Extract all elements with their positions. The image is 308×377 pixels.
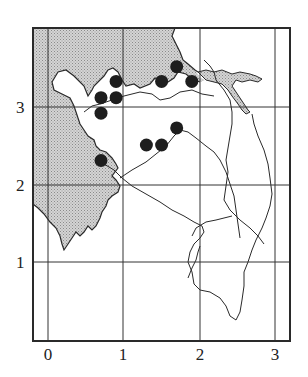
site-marker bbox=[110, 75, 123, 88]
y-tick-label: 2 bbox=[16, 177, 25, 194]
site-marker bbox=[95, 91, 108, 104]
x-tick-label: 3 bbox=[271, 346, 280, 363]
site-marker bbox=[185, 75, 198, 88]
site-marker bbox=[170, 60, 183, 73]
y-tick-label: 3 bbox=[16, 99, 25, 116]
x-tick-label: 0 bbox=[44, 346, 53, 363]
river-tributary bbox=[192, 216, 232, 236]
site-marker bbox=[140, 139, 153, 152]
site-marker bbox=[95, 107, 108, 120]
river-east bbox=[204, 60, 264, 244]
x-tick-label: 2 bbox=[196, 346, 205, 363]
boundary-south bbox=[120, 130, 240, 238]
site-marker bbox=[155, 139, 168, 152]
site-marker bbox=[170, 121, 183, 134]
site-marker bbox=[95, 154, 108, 167]
x-tick-label: 1 bbox=[119, 346, 128, 363]
site-marker bbox=[110, 91, 123, 104]
map-canvas bbox=[0, 0, 308, 377]
boundary-southwest bbox=[104, 114, 272, 320]
y-tick-label: 1 bbox=[16, 254, 25, 271]
site-marker bbox=[155, 75, 168, 88]
map-figure: 0123321 bbox=[0, 0, 308, 377]
